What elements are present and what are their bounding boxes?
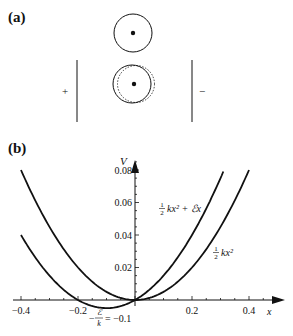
x-tick-label: 0.2: [186, 305, 199, 316]
svg-text:1: 1: [214, 245, 218, 253]
svg-text:= −0.1: = −0.1: [105, 313, 131, 324]
plus-sign: +: [62, 85, 68, 97]
figure: (a) + − (b) −0.4−0.20.20.40.020.040.060.…: [0, 0, 293, 336]
label-shifted-potential: 12kx² + ℰx: [159, 201, 202, 217]
polarized-atom: [113, 65, 155, 103]
neutral-atom: [114, 14, 152, 52]
svg-text:2: 2: [160, 209, 164, 217]
x-tick-label: −0.4: [12, 305, 30, 316]
minimum-annotation: −ℰk= −0.1: [89, 308, 131, 328]
svg-text:1: 1: [160, 201, 164, 209]
y-tick-label: 0.04: [115, 230, 133, 241]
svg-text:−: −: [89, 313, 95, 324]
svg-text:kx² + ℰx: kx² + ℰx: [167, 203, 202, 214]
y-tick-label: 0.06: [115, 197, 133, 208]
x-tick-label: −0.2: [69, 305, 87, 316]
panel-b-label: (b): [8, 140, 26, 157]
x-tick-label: 0.4: [243, 305, 256, 316]
svg-text:ℰ: ℰ: [97, 308, 103, 317]
x-axis-label: x: [266, 306, 272, 317]
chart-labels: −0.4−0.20.20.40.020.040.060.08xV12kx² + …: [12, 155, 272, 328]
y-tick-label: 0.02: [115, 262, 133, 273]
svg-text:k: k: [97, 319, 101, 328]
svg-text:kx²: kx²: [221, 247, 234, 258]
minus-sign: −: [199, 85, 205, 97]
svg-text:2: 2: [214, 253, 218, 261]
label-harmonic-potential: 12kx²: [213, 245, 234, 261]
x-axis-arrow-icon: [272, 296, 285, 304]
panel-a-label: (a): [8, 9, 26, 26]
